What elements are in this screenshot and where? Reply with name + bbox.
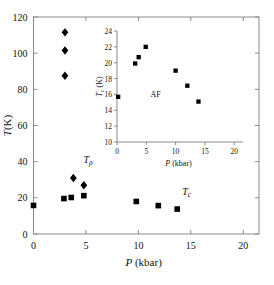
main-yticklabel: 60 <box>18 120 28 131</box>
inset-yticklabel: 12 <box>105 122 113 131</box>
inset-data-point-square <box>173 68 177 72</box>
main-yticklabel: 80 <box>18 84 28 95</box>
inset-data-point-square <box>144 45 148 49</box>
main-xticklabel: 15 <box>186 240 196 251</box>
data-point-diamond <box>62 72 69 80</box>
main-yticklabel: 100 <box>13 48 28 59</box>
inset-yticklabel: 16 <box>105 90 113 99</box>
annotation-af: AF <box>151 90 162 99</box>
inset-data-point-square <box>196 99 200 103</box>
inset-data-point-square <box>137 55 141 59</box>
main-y-axis-title: T(K) <box>1 114 14 136</box>
data-point-diamond <box>62 46 69 54</box>
data-point-diamond <box>62 28 69 36</box>
inset-data-point-square <box>116 95 120 99</box>
main-xticklabel: 0 <box>31 240 36 251</box>
main-x-axis-title: P (kbar) <box>124 256 162 269</box>
data-point-diamond <box>70 174 77 182</box>
inset-yticklabel: 22 <box>105 43 113 52</box>
inset-xticklabel: 0 <box>115 147 119 156</box>
data-point-diamond <box>80 181 87 189</box>
figure-container: 05101520020406080100120P (kbar)T(K)TρTc0… <box>0 0 274 285</box>
data-point-square <box>81 193 87 199</box>
annotation-t-c: Tc <box>182 186 192 199</box>
main-yticklabel: 40 <box>18 156 28 167</box>
data-point-square <box>68 195 74 201</box>
data-point-square <box>61 196 67 202</box>
annotation-t-rho: Tρ <box>83 154 93 167</box>
data-point-square <box>31 203 37 209</box>
inset-yticklabel: 10 <box>105 138 113 147</box>
inset-data-point-square <box>133 61 137 65</box>
main-xticklabel: 5 <box>83 240 88 251</box>
main-yticklabel: 120 <box>13 12 28 23</box>
inset-xticklabel: 10 <box>172 147 180 156</box>
inset-yticklabel: 18 <box>105 75 113 84</box>
main-yticklabel: 0 <box>23 229 28 240</box>
data-point-square <box>133 199 139 205</box>
inset-xticklabel: 20 <box>230 147 238 156</box>
inset-yticklabel: 24 <box>105 27 113 36</box>
main-xticklabel: 20 <box>238 240 248 251</box>
data-point-square <box>156 203 162 209</box>
inset-xticklabel: 5 <box>144 147 148 156</box>
inset-data-point-square <box>185 84 189 88</box>
inset-yticklabel: 14 <box>105 106 113 115</box>
inset-xticklabel: 15 <box>201 147 209 156</box>
scatter-plot-figure: 05101520020406080100120P (kbar)T(K)TρTc0… <box>0 0 274 285</box>
inset-x-axis-title: P (kbar) <box>164 159 192 168</box>
main-yticklabel: 20 <box>18 192 28 203</box>
inset-y-axis-title: Tc (K) <box>95 76 105 97</box>
main-xticklabel: 10 <box>133 240 143 251</box>
inset-yticklabel: 20 <box>105 59 113 68</box>
data-point-square <box>174 206 180 212</box>
